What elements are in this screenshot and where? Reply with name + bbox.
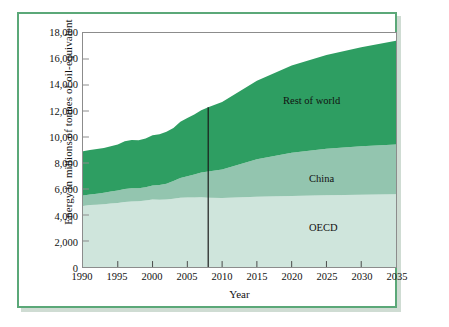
y-tick-label: 14,000 [49, 79, 78, 90]
x-tick-label: 2015 [247, 271, 268, 282]
area-oecd [83, 194, 396, 267]
x-tick-label: 2025 [317, 271, 338, 282]
annotation-oecd: OECD [309, 222, 338, 233]
x-tick-label: 2005 [177, 271, 198, 282]
annotation-rest-of-world: Rest of world [283, 95, 340, 106]
y-tick-label: 2,000 [54, 236, 78, 247]
y-tick-label: 12,000 [49, 105, 78, 116]
plot-area: Rest of world China OECD [82, 32, 397, 268]
y-tick-label: 4,000 [54, 210, 78, 221]
stacked-area-chart [83, 33, 396, 267]
figure-root: Energy in millions of tonnes of oil-equi… [0, 0, 449, 327]
x-axis-tick-labels: 1990199520002005201020152020202520302035 [82, 271, 397, 287]
y-tick-label: 18,000 [49, 27, 78, 38]
y-tick-label: 8,000 [54, 158, 78, 169]
y-tick-label: 6,000 [54, 184, 78, 195]
annotation-china: China [309, 173, 334, 184]
y-tick-label: 10,000 [49, 131, 78, 142]
x-tick-label: 2010 [212, 271, 233, 282]
x-tick-label: 1990 [72, 271, 93, 282]
y-tick-label: 16,000 [49, 53, 78, 64]
x-tick-label: 2035 [387, 271, 408, 282]
x-tick-label: 1995 [107, 271, 128, 282]
x-tick-label: 2020 [282, 271, 303, 282]
x-axis-title: Year [82, 288, 397, 300]
x-tick-label: 2030 [352, 271, 373, 282]
y-axis-tick-labels: 02,0004,0006,0008,00010,00012,00014,0001… [38, 32, 78, 268]
x-tick-label: 2000 [142, 271, 163, 282]
